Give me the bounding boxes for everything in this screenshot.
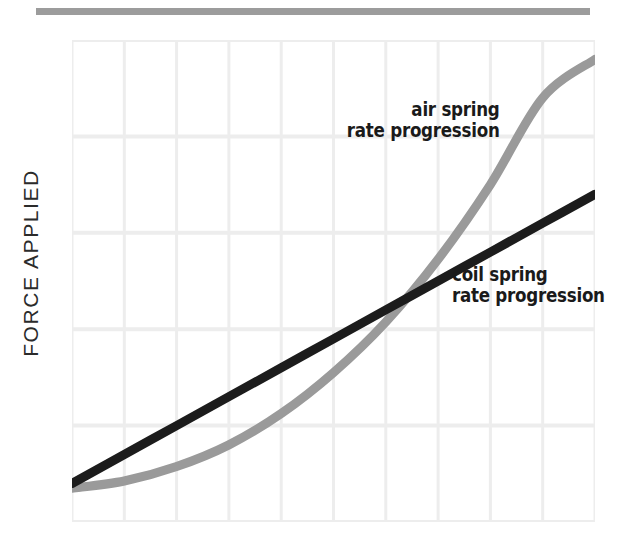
spring-rate-chart-figure: FORCE APPLIED air spring rate progressio…: [0, 0, 617, 547]
y-axis-label: FORCE APPLIED: [19, 148, 43, 378]
air-spring-annotation-line2: rate progression: [347, 120, 500, 141]
coil-spring-annotation-line1: coil spring: [452, 264, 605, 285]
air-spring-annotation: air spring rate progression: [347, 99, 500, 140]
coil-spring-annotation-line2: rate progression: [452, 285, 605, 306]
coil-spring-annotation: coil spring rate progression: [452, 264, 605, 305]
top-divider-rule: [36, 8, 590, 15]
coil-spring-line: [72, 194, 595, 483]
air-spring-annotation-line1: air spring: [347, 99, 500, 120]
